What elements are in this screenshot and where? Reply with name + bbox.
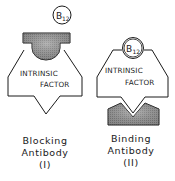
intrinsic-label-line2: FACTOR bbox=[40, 80, 70, 89]
caption-blocking-line1: Blocking bbox=[22, 135, 67, 146]
panel-blocking: B 12 INTRINSIC FACTOR Blocking Antibody … bbox=[8, 6, 82, 170]
caption-blocking-line2: Antibody bbox=[21, 147, 68, 158]
b12-ligand: B 12 bbox=[123, 38, 144, 59]
b12-subscript: 12 bbox=[62, 15, 70, 22]
intrinsic-label-line1: INTRINSIC bbox=[105, 66, 143, 75]
caption-blocking-numeral: (I) bbox=[39, 159, 51, 170]
b12-subscript: 12 bbox=[133, 48, 141, 55]
caption-binding-line2: Antibody bbox=[107, 145, 154, 156]
b12-ligand: B 12 bbox=[53, 6, 71, 24]
caption-binding-numeral: (II) bbox=[123, 157, 138, 168]
antibody-diagram: B 12 INTRINSIC FACTOR Blocking Antibody … bbox=[0, 0, 175, 181]
b12-label: B bbox=[126, 44, 132, 54]
intrinsic-label-line1: INTRINSIC bbox=[20, 69, 58, 78]
intrinsic-label-line2: FACTOR bbox=[125, 78, 155, 87]
panel-binding: B 12 INTRINSIC FACTOR Binding Antibody (… bbox=[97, 38, 168, 169]
caption-binding-line1: Binding bbox=[111, 133, 151, 144]
